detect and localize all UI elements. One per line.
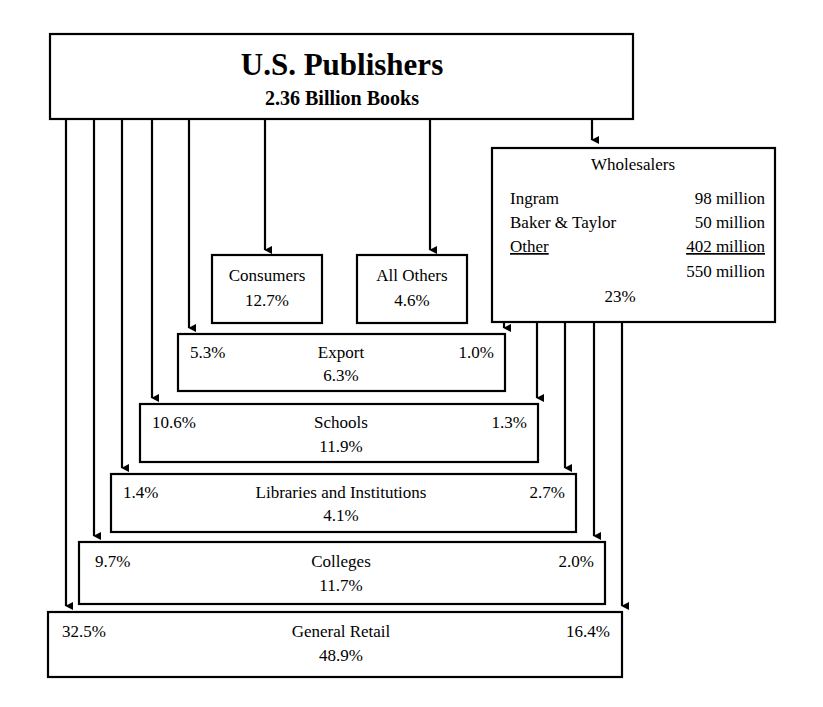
wholesalers-title: Wholesalers [591, 155, 675, 174]
consumers-node: Consumers 12.7% [212, 255, 322, 323]
colleges-total-percent: 11.7% [319, 576, 362, 595]
libraries-total-percent: 4.1% [323, 506, 358, 525]
libraries-wholesale-percent: 2.7% [530, 483, 565, 502]
libraries-direct-percent: 1.4% [123, 483, 158, 502]
channel-bar-schools: 10.6% Schools 1.3% 11.9% [140, 404, 538, 462]
wholesaler-value-other: 402 million [686, 237, 765, 256]
flow-diagram-canvas: U.S. Publishers 2.36 Billion Books Whole… [0, 0, 823, 707]
export-total-percent: 6.3% [323, 366, 358, 385]
all-others-node: All Others 4.6% [357, 255, 467, 323]
channel-bar-general-retail: 32.5% General Retail 16.4% 48.9% [48, 612, 622, 677]
publishers-node: U.S. Publishers 2.36 Billion Books [50, 34, 633, 119]
publishers-title: U.S. Publishers [241, 47, 443, 82]
wholesaler-value-ingram: 98 million [695, 189, 766, 208]
wholesaler-name-other: Other [510, 237, 549, 256]
schools-label: Schools [314, 413, 368, 432]
schools-total-percent: 11.9% [319, 437, 362, 456]
general-retail-label: General Retail [292, 622, 391, 641]
wholesaler-name-baker-taylor: Baker & Taylor [510, 213, 616, 232]
consumers-percent: 12.7% [245, 291, 289, 310]
wholesalers-total: 550 million [686, 262, 765, 281]
channel-bar-libraries: 1.4% Libraries and Institutions 2.7% 4.1… [111, 474, 576, 532]
export-label: Export [318, 343, 365, 362]
general-retail-direct-percent: 32.5% [62, 622, 106, 641]
wholesaler-name-ingram: Ingram [510, 189, 559, 208]
export-wholesale-percent: 1.0% [459, 343, 494, 362]
all-others-label: All Others [376, 266, 447, 285]
all-others-percent: 4.6% [394, 291, 429, 310]
wholesalers-node: Wholesalers Ingram 98 million Baker & Ta… [492, 148, 775, 322]
general-retail-wholesale-percent: 16.4% [566, 622, 610, 641]
wholesalers-percent: 23% [604, 287, 635, 306]
wholesaler-value-baker-taylor: 50 million [695, 213, 766, 232]
channel-bar-export: 5.3% Export 1.0% 6.3% [178, 334, 505, 391]
colleges-direct-percent: 9.7% [95, 552, 130, 571]
colleges-wholesale-percent: 2.0% [559, 552, 594, 571]
channel-bar-colleges: 9.7% Colleges 2.0% 11.7% [79, 542, 605, 604]
libraries-label: Libraries and Institutions [256, 483, 427, 502]
publishers-subtitle: 2.36 Billion Books [265, 87, 419, 109]
schools-wholesale-percent: 1.3% [492, 413, 527, 432]
publisher-distribution-diagram: U.S. Publishers 2.36 Billion Books Whole… [0, 0, 823, 707]
export-direct-percent: 5.3% [190, 343, 225, 362]
consumers-label: Consumers [229, 266, 306, 285]
schools-direct-percent: 10.6% [152, 413, 196, 432]
colleges-label: Colleges [311, 552, 371, 571]
general-retail-total-percent: 48.9% [319, 646, 363, 665]
